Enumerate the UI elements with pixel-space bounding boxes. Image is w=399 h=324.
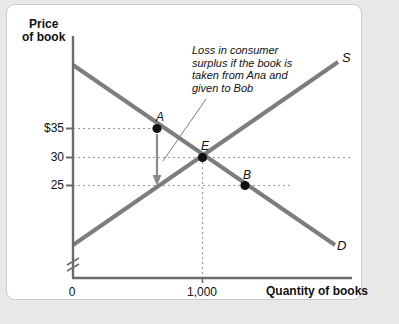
x-axis-title: Quantity of books	[266, 285, 368, 298]
y-tick-label-35: $35	[18, 121, 64, 135]
x-tick-label-1000: 1,000	[178, 285, 226, 299]
demand-curve-label: D	[337, 238, 346, 253]
data-point-b[interactable]	[240, 181, 249, 190]
figure-container: Price of book Quantity of books $35 30 2…	[0, 0, 399, 324]
supply-curve-label: S	[342, 50, 351, 65]
y-tick-label-25: 25	[18, 178, 64, 192]
data-point-e[interactable]	[198, 153, 207, 162]
y-axis-title: Price of book	[22, 18, 65, 44]
x-tick-label-0: 0	[62, 285, 82, 299]
point-label-b: B	[243, 168, 251, 182]
point-label-a: A	[156, 110, 164, 124]
point-label-e: E	[201, 139, 209, 153]
data-point-a[interactable]	[152, 124, 161, 133]
y-tick-label-30: 30	[18, 150, 64, 164]
consumer-surplus-annotation: Loss in consumer surplus if the book is …	[192, 44, 298, 94]
